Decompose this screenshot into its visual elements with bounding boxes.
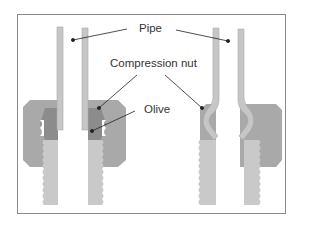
right-assembly [199,28,283,205]
left-pipe-wall-left [57,27,63,130]
nut-leader-dot-left [97,106,100,109]
left-body-left [43,140,59,205]
label-olive: Olive [144,104,170,116]
pipe-leader-right [176,30,228,41]
olive-leader-dot [90,129,93,132]
right-body-right [244,140,261,205]
left-assembly [23,27,126,205]
nut-leader-dot-right [200,106,203,109]
label-compression-nut: Compression nut [110,58,197,70]
pipe-leader-dot-left [71,38,74,41]
left-pipe-wall-right [82,28,88,130]
label-pipe: Pipe [139,23,162,35]
right-body-left [199,140,217,205]
pipe-leader-dot-right [226,39,229,42]
nut-leader-right [165,75,202,108]
pipe-leader-left [73,29,127,40]
left-body-right [88,140,104,205]
